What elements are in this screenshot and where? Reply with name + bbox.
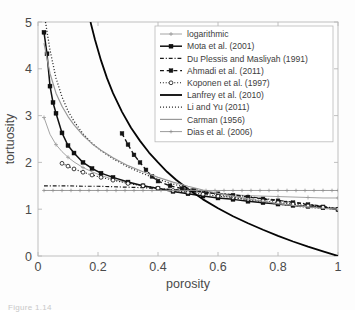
data-marker [90,166,94,170]
data-marker [48,84,52,88]
y-tick-label: 5 [25,16,32,30]
data-marker [169,44,173,48]
data-marker [120,131,124,135]
legend-label: logarithmic [187,29,229,39]
x-tick-label: 0 [35,260,42,274]
data-marker [169,69,173,73]
data-marker [90,173,94,177]
legend-label: Carman (1956) [187,115,245,125]
x-tick-label: 1 [335,260,342,274]
x-tick-label: 0.2 [89,260,106,274]
data-marker [66,164,70,168]
data-marker [126,143,130,147]
data-marker [111,178,115,182]
data-marker [201,192,205,196]
x-tick-label: 0.8 [269,260,286,274]
data-marker [126,182,130,186]
legend-layer[interactable]: logarithmicMota et al. (2001)Du Plessis … [155,26,333,142]
data-marker [180,187,184,191]
y-axis-title: tortuosity [3,113,17,164]
legend-label: Mota et al. (2001) [187,41,254,51]
legend-label: Du Plessis and Masliyah (1991) [187,54,308,64]
legend-label: Koponen et al. (1997) [187,78,270,88]
y-tick-label: 2 [25,156,32,170]
data-marker [168,184,172,188]
data-marker [216,194,220,198]
data-marker [81,170,85,174]
legend-label: Lanfrey et al. (2010) [187,90,264,100]
data-marker [51,100,55,104]
data-marker [99,175,103,179]
data-marker [99,171,103,175]
data-marker [81,160,85,164]
data-marker [132,153,136,157]
data-marker [169,81,173,85]
legend-label: Li and Yu (2011) [187,102,249,112]
legend-label: Dias et al. (2006) [187,127,253,137]
legend-label: Ahmadi et al. (2011) [187,66,264,76]
data-marker [156,186,160,190]
data-marker [54,111,58,115]
data-marker [141,184,145,188]
y-tick-label: 3 [25,109,32,123]
data-marker [72,151,76,155]
y-tick-label: 4 [25,62,32,76]
y-tick-label: 1 [25,203,32,217]
data-marker [138,161,142,165]
x-axis-title: porosity [166,277,211,291]
data-marker [60,161,64,165]
series-line [62,163,338,209]
data-marker [42,30,46,34]
figure-caption: Figure 1.14 [8,303,52,312]
data-marker [72,167,76,171]
data-marker [60,131,64,135]
data-marker [66,144,70,148]
x-tick-label: 0.4 [149,260,166,274]
data-marker [144,168,148,172]
y-tick-label: 0 [25,250,32,264]
x-tick-label: 0.6 [209,260,226,274]
